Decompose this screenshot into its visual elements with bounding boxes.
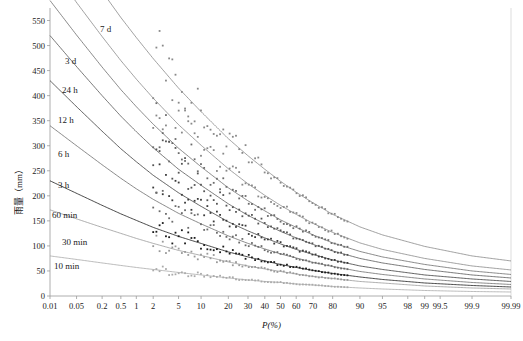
curve-3-d — [53, 0, 511, 270]
data-point — [343, 246, 345, 248]
data-point — [152, 164, 154, 166]
data-point — [222, 194, 224, 196]
data-point — [156, 148, 158, 150]
data-point — [200, 254, 202, 256]
data-point — [216, 203, 218, 205]
data-point — [229, 253, 231, 255]
data-point — [312, 242, 314, 244]
data-point — [203, 190, 205, 192]
curve-label-24-h: 24 h — [62, 86, 78, 95]
data-point — [152, 245, 154, 247]
data-point — [296, 192, 298, 194]
data-point — [299, 284, 301, 286]
x-tick-label: 99.9 — [465, 302, 480, 311]
data-point — [312, 254, 314, 256]
data-point — [197, 198, 199, 200]
data-point — [273, 176, 275, 178]
data-point — [299, 267, 301, 269]
data-point — [245, 258, 247, 260]
data-point — [283, 282, 285, 284]
data-point — [168, 161, 170, 163]
data-point — [203, 214, 205, 216]
data-point — [222, 129, 224, 131]
data-point — [251, 185, 253, 187]
data-point — [254, 266, 256, 268]
x-tick-label: 70 — [309, 302, 318, 311]
x-tick-label: 0.5 — [116, 302, 127, 311]
data-point — [232, 189, 234, 191]
data-point — [257, 223, 259, 225]
data-point — [312, 222, 314, 224]
data-point — [165, 268, 167, 270]
data-point — [226, 251, 228, 253]
data-point — [347, 268, 349, 270]
data-point — [168, 274, 170, 276]
data-point — [210, 212, 212, 214]
data-point — [261, 266, 263, 268]
data-point — [248, 215, 250, 217]
data-point — [162, 266, 164, 268]
data-point — [277, 205, 279, 207]
y-tick-label: 350 — [20, 116, 45, 125]
data-point — [184, 242, 186, 244]
data-point — [156, 102, 158, 104]
data-point — [152, 270, 154, 272]
data-point — [162, 45, 164, 47]
data-point — [347, 274, 349, 276]
data-point — [165, 140, 167, 142]
data-point — [273, 271, 275, 273]
data-point — [178, 206, 180, 208]
data-point — [152, 127, 154, 129]
curve-label-60-min: 60 min — [52, 211, 77, 220]
data-point — [283, 185, 285, 187]
data-point — [286, 282, 288, 284]
data-point — [197, 88, 199, 90]
data-point — [226, 205, 228, 207]
data-point — [171, 178, 173, 180]
data-point — [187, 188, 189, 190]
data-point — [254, 259, 256, 261]
data-point — [286, 231, 288, 233]
data-point — [340, 274, 342, 276]
data-point — [251, 279, 253, 281]
data-point — [270, 226, 272, 228]
data-point — [321, 246, 323, 248]
data-point — [181, 91, 183, 93]
axis-frame — [50, 8, 511, 296]
data-point — [318, 284, 320, 286]
data-point — [171, 58, 173, 60]
data-point — [277, 218, 279, 220]
data-point — [315, 270, 317, 272]
data-point — [216, 261, 218, 263]
data-point — [178, 272, 180, 274]
data-point — [340, 278, 342, 280]
data-point — [165, 174, 167, 176]
data-point — [248, 254, 250, 256]
data-point — [222, 231, 224, 233]
x-tick-label: 2 — [151, 302, 155, 311]
x-tick-label: 5 — [176, 302, 180, 311]
data-point — [200, 223, 202, 225]
data-point — [162, 193, 164, 195]
data-point — [340, 235, 342, 237]
data-point — [165, 252, 167, 254]
data-point — [232, 276, 234, 278]
data-point — [159, 150, 161, 152]
data-point — [222, 261, 224, 263]
data-point — [235, 252, 237, 254]
data-point — [324, 272, 326, 274]
data-point — [308, 222, 310, 224]
data-point — [273, 281, 275, 283]
data-point — [200, 110, 202, 112]
data-point — [340, 252, 342, 254]
data-point — [219, 260, 221, 262]
data-point — [165, 114, 167, 116]
rainfall-frequency-chart: 雨量（mm） P(%) 0501001502002503003504004505… — [0, 0, 523, 341]
data-point — [197, 136, 199, 138]
x-tick-label: 0.05 — [69, 302, 84, 311]
x-tick-label: 1 — [134, 302, 138, 311]
data-point — [292, 283, 294, 285]
data-point — [168, 195, 170, 197]
data-point — [156, 47, 158, 49]
data-point — [343, 274, 345, 276]
